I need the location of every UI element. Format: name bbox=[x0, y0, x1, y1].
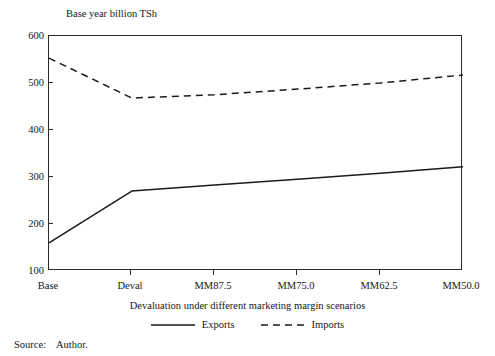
series-line-exports bbox=[49, 167, 463, 243]
y-tick-label-100: 100 bbox=[4, 265, 44, 276]
x-tick-mark-mm625 bbox=[379, 270, 380, 275]
source-note: Source: Author. bbox=[14, 338, 88, 351]
y-tick-label-200: 200 bbox=[4, 218, 44, 229]
legend-swatch-dashed-icon bbox=[261, 321, 305, 329]
chart-legend: Exports Imports bbox=[0, 318, 495, 331]
x-tick-label-mm625: MM62.5 bbox=[347, 280, 411, 292]
series-canvas bbox=[49, 36, 463, 271]
legend-swatch-solid-icon bbox=[151, 321, 195, 329]
x-tick-mark-mm875 bbox=[213, 270, 214, 275]
plot-area bbox=[48, 35, 462, 270]
x-axis-title: Devaluation under different marketing ma… bbox=[0, 299, 495, 312]
legend-label-imports: Imports bbox=[312, 318, 345, 331]
legend-label-exports: Exports bbox=[202, 318, 235, 331]
x-tick-label-base: Base bbox=[18, 280, 78, 292]
x-tick-label-mm875: MM87.5 bbox=[181, 280, 245, 292]
x-tick-label-mm500: MM50.0 bbox=[429, 280, 493, 292]
y-tick-label-300: 300 bbox=[4, 171, 44, 182]
chart-figure: Base year billion TSh 600 500 400 300 20… bbox=[0, 0, 495, 356]
series-line-imports bbox=[49, 58, 463, 98]
y-axis-title: Base year billion TSh bbox=[66, 8, 157, 20]
y-tick-label-600: 600 bbox=[4, 30, 44, 41]
legend-entry-exports: Exports bbox=[151, 318, 235, 331]
x-tick-label-mm750: MM75.0 bbox=[264, 280, 328, 292]
x-tick-mark-deval bbox=[130, 270, 131, 275]
legend-entry-imports: Imports bbox=[261, 318, 345, 331]
x-tick-label-deval: Deval bbox=[100, 280, 160, 292]
x-tick-mark-mm750 bbox=[296, 270, 297, 275]
y-tick-label-500: 500 bbox=[4, 77, 44, 88]
y-tick-label-400: 400 bbox=[4, 124, 44, 135]
